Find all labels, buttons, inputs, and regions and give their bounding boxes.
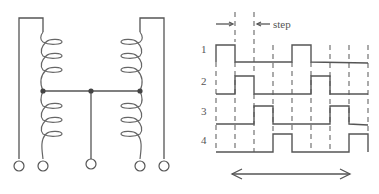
right-coil-upper <box>121 32 142 91</box>
left-outer-wire <box>19 18 43 159</box>
diagram-canvas: step 1 2 3 4 <box>0 0 379 194</box>
left-coil-upper <box>41 32 62 91</box>
right-outer-wire <box>140 18 164 159</box>
left-coil-lower <box>41 91 62 159</box>
phase-1-waveform <box>216 45 368 63</box>
winding-circuit <box>14 18 169 171</box>
junction-dot-left <box>40 88 45 93</box>
phase-label-4: 4 <box>201 134 207 146</box>
step-label: step <box>273 18 291 30</box>
phase-label-2: 2 <box>201 75 207 87</box>
terminal-4 <box>159 161 169 171</box>
junction-dot-center <box>88 88 93 93</box>
terminal-1 <box>14 161 24 171</box>
phase-4-waveform <box>216 134 368 152</box>
junction-dot-right <box>137 88 142 93</box>
terminal-2 <box>38 161 48 171</box>
right-coil-lower <box>121 91 142 159</box>
terminal-3 <box>135 161 145 171</box>
phase-label-1: 1 <box>201 43 207 55</box>
phase-label-3: 3 <box>201 105 207 117</box>
timing-diagram: step 1 2 3 4 <box>201 12 368 179</box>
terminal-common <box>86 159 96 169</box>
